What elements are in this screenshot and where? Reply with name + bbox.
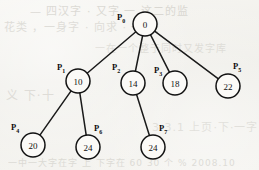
- node-value-label: 22: [224, 82, 233, 92]
- node-pointer-label: P7: [159, 123, 167, 135]
- node-pointer-index: 0: [122, 18, 125, 24]
- node-pointer-index: 7: [164, 129, 167, 135]
- tree-node-p6[interactable]: 24P6: [76, 123, 102, 159]
- node-pointer-label: P4: [11, 122, 19, 134]
- tree-edge: [155, 31, 219, 79]
- node-pointer-index: 1: [62, 68, 65, 74]
- tree-edge: [40, 91, 71, 135]
- tree-node-p2[interactable]: 14P2: [112, 62, 145, 95]
- node-value-label: 14: [129, 79, 139, 89]
- tree-graph: 0P010P114P218P322P520P424P624P7: [0, 0, 259, 170]
- tree-node-p0[interactable]: 0P0: [117, 12, 157, 36]
- node-pointer-label: P6: [94, 123, 102, 135]
- tree-node-p3[interactable]: 18P3: [154, 65, 187, 95]
- node-pointer-label: P3: [154, 65, 162, 77]
- node-pointer-index: 2: [117, 68, 120, 74]
- tree-edge: [137, 94, 150, 135]
- node-value-label: 24: [149, 143, 159, 153]
- node-pointer-index: 5: [238, 67, 241, 73]
- node-value-label: 20: [29, 141, 39, 151]
- node-pointer-label: P0: [117, 12, 125, 24]
- node-value-label: 18: [171, 79, 181, 89]
- node-pointer-label: P1: [57, 62, 65, 74]
- node-pointer-index: 3: [159, 71, 162, 77]
- node-pointer-index: 4: [16, 128, 19, 134]
- tree-edge: [80, 93, 86, 135]
- tree-diagram-figure: — 四汉字 · 又字 一 这二的监花类 ，一身字 · 向求 · 一 空一在一个整…: [0, 0, 259, 170]
- node-value-label: 24: [84, 143, 94, 153]
- nodes-group: 0P010P114P218P322P520P424P624P7: [11, 12, 241, 159]
- node-pointer-label: P2: [112, 62, 120, 74]
- tree-node-p4[interactable]: 20P4: [11, 122, 45, 157]
- node-pointer-label: P5: [233, 61, 241, 73]
- tree-node-p7[interactable]: 24P7: [141, 123, 167, 159]
- tree-edge: [135, 36, 142, 71]
- node-value-label: 0: [143, 20, 148, 30]
- node-value-label: 10: [74, 77, 84, 87]
- node-pointer-index: 6: [99, 129, 102, 135]
- tree-node-p5[interactable]: 22P5: [216, 61, 241, 98]
- tree-node-p1[interactable]: 10P1: [57, 62, 90, 93]
